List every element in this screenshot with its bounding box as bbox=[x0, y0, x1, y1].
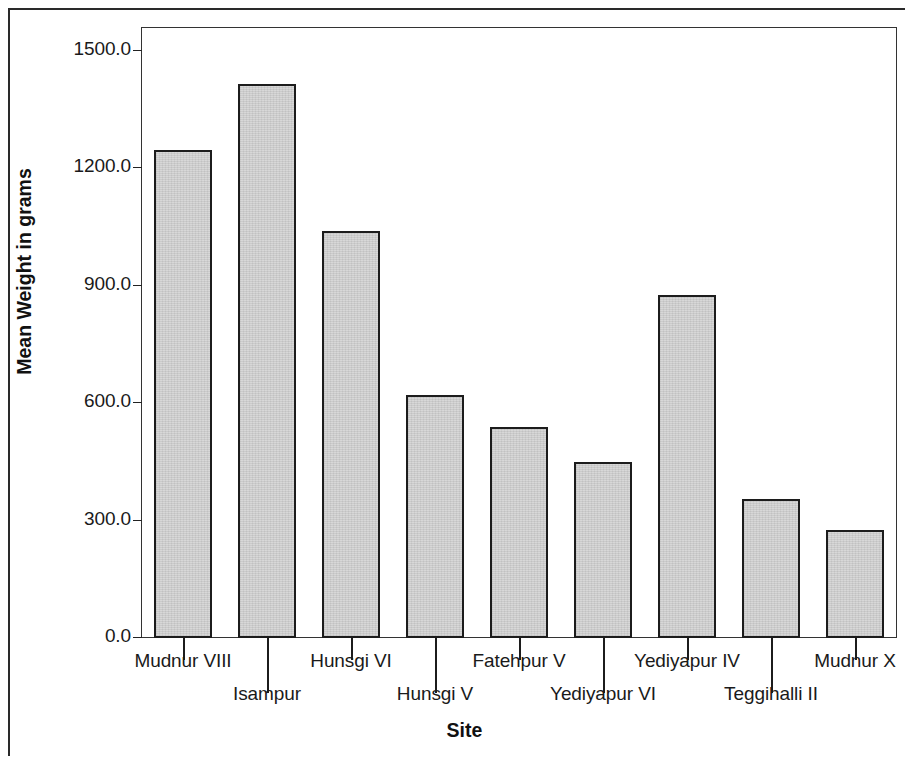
x-axis-tick-label: Isampur bbox=[233, 683, 301, 705]
y-axis-tick bbox=[133, 520, 142, 521]
x-axis-tick-label: Hunsgi V bbox=[397, 683, 473, 705]
x-axis-tick-label: Hunsgi VI bbox=[310, 650, 391, 672]
x-axis-tick-label: Mudnur X bbox=[814, 650, 896, 672]
x-axis-title: Site bbox=[0, 719, 913, 742]
y-axis-title: Mean Weight in grams bbox=[13, 122, 36, 422]
x-axis-title-text: Site bbox=[447, 719, 483, 741]
bar-chart-figure: 0.0300.0600.0900.01200.01500.0 Mudnur VI… bbox=[0, 0, 913, 764]
x-axis-tick-label: Teggihalli II bbox=[724, 683, 818, 705]
y-axis-tick bbox=[133, 50, 142, 51]
x-axis-tick-label: Yediyapur VI bbox=[550, 683, 656, 705]
x-axis-tick-label: Mudnur VIII bbox=[134, 650, 231, 672]
x-axis: Mudnur VIIIIsampurHunsgi VIHunsgi VFateh… bbox=[0, 0, 913, 764]
y-axis-tick bbox=[133, 285, 142, 286]
y-axis-tick bbox=[133, 167, 142, 168]
y-axis-tick bbox=[133, 637, 142, 638]
x-axis-tick-label: Yediyapur IV bbox=[634, 650, 740, 672]
x-axis-tick-label: Fatehpur V bbox=[473, 650, 566, 672]
y-axis-tick bbox=[133, 402, 142, 403]
